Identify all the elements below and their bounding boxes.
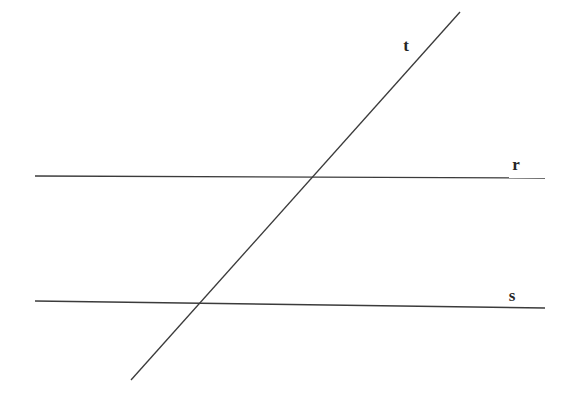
label-line-t: t xyxy=(403,36,409,55)
diagram-background xyxy=(0,0,569,400)
geometry-figure: r s t xyxy=(0,0,569,400)
geometry-diagram-canvas: r s t xyxy=(0,0,569,400)
label-line-r: r xyxy=(512,155,520,174)
label-line-s: s xyxy=(509,286,516,305)
